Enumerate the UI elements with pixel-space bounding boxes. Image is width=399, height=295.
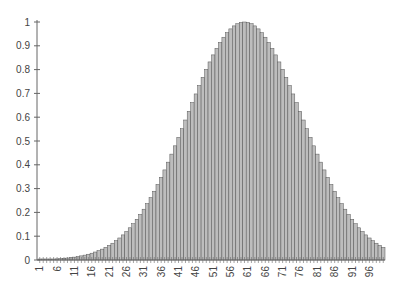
bar <box>340 204 343 260</box>
bar <box>215 48 218 260</box>
bar <box>323 170 326 260</box>
x-tick-label: 21 <box>104 266 115 278</box>
bar <box>260 33 263 260</box>
x-tick-label: 6 <box>52 266 63 272</box>
bar <box>319 162 322 260</box>
bar <box>270 48 273 260</box>
bar <box>250 24 253 260</box>
bar <box>142 209 145 260</box>
bar <box>146 204 149 260</box>
bar <box>264 37 267 260</box>
x-tick-label: 51 <box>208 266 219 278</box>
bar <box>347 214 350 260</box>
bar <box>125 232 128 260</box>
bar <box>343 209 346 260</box>
bar <box>329 184 332 260</box>
bar <box>253 26 256 260</box>
bar <box>305 129 308 260</box>
bar <box>361 232 364 260</box>
y-tick-label: 0.1 <box>16 231 30 242</box>
bar <box>177 137 180 260</box>
y-tick-label: 0.4 <box>16 159 30 170</box>
bar <box>149 198 152 260</box>
bar <box>229 29 232 260</box>
bar <box>194 94 197 260</box>
bar <box>239 22 242 260</box>
bar <box>222 37 225 260</box>
bar <box>201 77 204 260</box>
x-tick-label: 36 <box>156 266 167 278</box>
bar <box>291 94 294 260</box>
bar <box>159 177 162 260</box>
bar <box>302 120 305 260</box>
bar <box>218 42 221 260</box>
bar <box>267 42 270 260</box>
bar <box>312 146 315 260</box>
bar-chart: 00.10.20.30.40.50.60.70.80.91 1611162126… <box>0 0 399 295</box>
y-tick-label: 0.2 <box>16 207 30 218</box>
bar <box>309 137 312 260</box>
bar <box>316 154 319 260</box>
bar <box>132 224 135 260</box>
bar <box>187 111 190 260</box>
bar <box>333 191 336 260</box>
bar <box>128 228 131 260</box>
bar <box>326 177 329 260</box>
bar <box>212 55 215 260</box>
x-tick-label: 11 <box>69 266 80 277</box>
bar <box>166 162 169 260</box>
y-tick-label: 0 <box>24 255 30 266</box>
y-tick-label: 0.7 <box>16 88 30 99</box>
bar <box>336 198 339 260</box>
bar <box>274 55 277 260</box>
bar <box>135 219 138 260</box>
bar <box>156 184 159 260</box>
y-tick-label: 0.6 <box>16 112 30 123</box>
x-tick-label: 91 <box>347 266 358 278</box>
bar <box>368 238 371 260</box>
x-tick-label: 96 <box>364 266 375 278</box>
bar <box>284 77 287 260</box>
y-tick-label: 0.8 <box>16 64 30 75</box>
x-tick-label: 26 <box>121 266 132 278</box>
bar <box>288 86 291 260</box>
bar <box>205 69 208 260</box>
bar <box>153 191 156 260</box>
bar <box>295 103 298 260</box>
x-tick-label: 46 <box>190 266 201 278</box>
bar <box>139 214 142 260</box>
bar <box>281 69 284 260</box>
bar <box>191 103 194 260</box>
bar <box>257 29 260 260</box>
bar <box>357 228 360 260</box>
bar <box>236 24 239 260</box>
y-tick-label: 0.3 <box>16 183 30 194</box>
x-tick-label: 31 <box>138 266 149 278</box>
y-tick-label: 0.9 <box>16 40 30 51</box>
bar <box>180 129 183 260</box>
bar <box>364 235 367 260</box>
x-tick-label: 86 <box>329 266 340 278</box>
x-tick-label: 66 <box>260 266 271 278</box>
bar <box>118 238 121 260</box>
x-tick-label: 76 <box>294 266 305 278</box>
bars <box>38 22 385 260</box>
bar <box>225 33 228 260</box>
bar <box>170 154 173 260</box>
bar <box>184 120 187 260</box>
bar <box>121 235 124 260</box>
x-tick-label: 81 <box>312 266 323 278</box>
x-tick-label: 1 <box>34 266 45 272</box>
bar <box>208 62 211 260</box>
y-axis-ticks: 00.10.20.30.40.50.60.70.80.91 <box>16 17 40 266</box>
bar <box>354 224 357 260</box>
x-tick-label: 56 <box>225 266 236 278</box>
x-tick-label: 16 <box>86 266 97 278</box>
bar <box>350 219 353 260</box>
bar <box>246 22 249 260</box>
y-tick-label: 1 <box>24 17 30 28</box>
bar <box>232 26 235 260</box>
bar <box>173 146 176 260</box>
bar <box>243 22 246 260</box>
x-tick-label: 41 <box>173 266 184 278</box>
